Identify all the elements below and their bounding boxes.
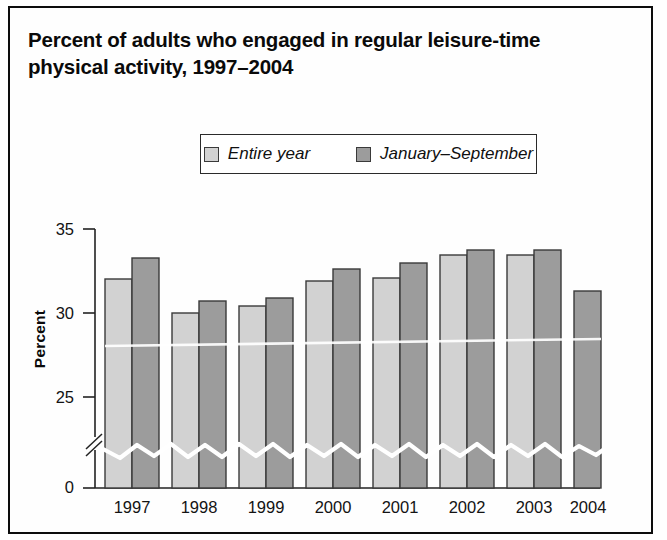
chart-page: Percent of adults who engaged in regular… — [0, 0, 667, 540]
axis-break-slash-lower — [86, 441, 102, 456]
chart-canvas — [0, 0, 667, 540]
bar-2001-entire-year — [373, 278, 400, 488]
bar-1999-entire-year — [239, 306, 266, 488]
bar-1998-entire-year — [172, 313, 199, 488]
bar-1998-january-september — [199, 301, 226, 488]
bar-chart-plot: Percent 35 30 25 0 — [0, 0, 667, 540]
bar-2000-entire-year — [306, 281, 333, 488]
axis-break-slash-upper — [86, 434, 102, 449]
bar-2004-january-september — [574, 291, 601, 488]
x-tick-label-2004: 2004 — [548, 498, 628, 517]
bar-1999-january-september — [266, 298, 293, 488]
